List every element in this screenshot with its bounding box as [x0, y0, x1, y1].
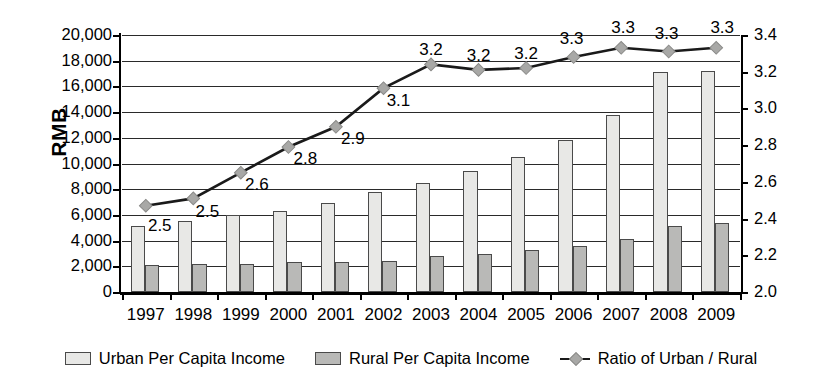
y-axis-right-tick — [741, 108, 748, 110]
bar-urban — [558, 140, 572, 292]
legend-item[interactable]: Ratio of Urban / Rural — [560, 349, 758, 368]
bar-urban — [463, 171, 477, 292]
ratio-data-label: 2.5 — [195, 202, 219, 222]
x-axis-tick — [217, 292, 219, 300]
legend-label: Urban Per Capita Income — [99, 349, 285, 368]
bar-rural — [192, 264, 206, 292]
bar-urban — [368, 192, 382, 292]
x-axis-tick-label: 2000 — [269, 305, 307, 325]
ratio-data-label: 3.2 — [514, 44, 538, 64]
bar-rural — [668, 226, 682, 292]
bar-rural — [287, 262, 301, 292]
bar-rural — [573, 246, 587, 292]
x-axis-tick-label: 2004 — [460, 305, 498, 325]
y-axis-left-tick — [113, 61, 120, 63]
y-axis-left-tick — [113, 112, 120, 114]
x-axis-tick — [407, 292, 409, 300]
x-axis-tick-label: 2006 — [555, 305, 593, 325]
bar-urban — [226, 215, 240, 292]
y-axis-left-tick-label: 6,000 — [12, 205, 112, 224]
y-axis-left-tick — [113, 35, 120, 37]
x-axis-tick — [502, 292, 504, 300]
bar-urban — [511, 157, 525, 292]
ratio-data-label: 3.3 — [655, 24, 679, 44]
y-axis-left-tick-label: 10,000 — [12, 154, 112, 173]
ratio-data-label: 3.3 — [611, 18, 635, 38]
x-axis-tick-label: 1998 — [174, 305, 212, 325]
ratio-data-label: 3.3 — [560, 29, 584, 49]
bar-rural — [715, 223, 729, 292]
y-axis-left-tick — [113, 86, 120, 88]
ratio-data-label: 3.2 — [419, 40, 443, 60]
gridline — [122, 112, 740, 113]
x-axis-tick — [265, 292, 267, 300]
ratio-data-label: 2.5 — [148, 216, 172, 236]
y-axis-left-tick — [113, 241, 120, 243]
ratio-data-label: 2.8 — [294, 149, 318, 169]
bar-rural — [335, 262, 349, 292]
x-axis-tick — [170, 292, 172, 300]
x-axis-tick-label: 2003 — [412, 305, 450, 325]
gridline — [122, 164, 740, 165]
y-axis-right-tick — [741, 219, 748, 221]
legend-swatch-urban-icon — [65, 352, 91, 365]
legend-item[interactable]: Urban Per Capita Income — [65, 349, 285, 368]
legend-swatch-rural-icon — [315, 352, 341, 365]
y-axis-left-tick-label: 14,000 — [12, 102, 112, 121]
x-axis-tick — [312, 292, 314, 300]
y-axis-left-tick-label: 20,000 — [12, 25, 112, 44]
chart-legend: Urban Per Capita IncomeRural Per Capita … — [0, 344, 822, 372]
x-axis-tick — [740, 292, 742, 300]
gridline — [122, 189, 740, 190]
gridline — [122, 61, 740, 62]
y-axis-left-tick — [113, 266, 120, 268]
y-axis-left-tick-label: 12,000 — [12, 128, 112, 147]
bar-rural — [525, 250, 539, 292]
x-axis-tick-label: 2005 — [507, 305, 545, 325]
gridline — [122, 241, 740, 242]
y-axis-left-tick-label: 18,000 — [12, 51, 112, 70]
bar-urban — [273, 211, 287, 292]
legend-label: Ratio of Urban / Rural — [598, 349, 758, 368]
legend-line-marker-icon — [560, 352, 590, 365]
y-axis-right-tick — [741, 182, 748, 184]
y-axis-left-tick-label: 8,000 — [12, 179, 112, 198]
bar-urban — [653, 72, 667, 292]
y-axis-left-tick — [113, 215, 120, 217]
bar-rural — [478, 254, 492, 292]
legend-label: Rural Per Capita Income — [349, 349, 530, 368]
gridline — [122, 138, 740, 139]
y-axis-right-tick — [741, 35, 748, 37]
x-axis-tick — [122, 292, 124, 300]
gridline — [122, 35, 740, 36]
x-axis-tick-label: 2002 — [365, 305, 403, 325]
y-axis-right-tick — [741, 145, 748, 147]
y-axis-right-tick-label: 2.8 — [754, 135, 777, 154]
y-axis-right-tick-label: 2.2 — [754, 245, 777, 264]
y-axis-right-tick-label: 3.4 — [754, 25, 777, 44]
y-axis-right-tick — [741, 292, 748, 294]
y-axis-right-tick-label: 2.0 — [754, 282, 777, 301]
ratio-data-label: 2.9 — [341, 129, 365, 149]
bar-urban — [701, 71, 715, 292]
y-axis-right-tick-label: 2.4 — [754, 209, 777, 228]
x-axis-tick — [550, 292, 552, 300]
bar-rural — [382, 261, 396, 292]
gridline — [122, 86, 740, 87]
x-axis-tick-label: 2009 — [697, 305, 735, 325]
chart-container: RMB 02,0004,0006,0008,00010,00012,00014,… — [0, 0, 822, 384]
ratio-data-label: 3.3 — [710, 18, 734, 38]
bar-rural — [620, 239, 634, 292]
y-axis-right-tick — [741, 72, 748, 74]
y-axis-right-tick-label: 3.2 — [754, 62, 777, 81]
bar-urban — [321, 203, 335, 292]
y-axis-left-tick-label: 4,000 — [12, 231, 112, 250]
y-axis-left-tick-label: 2,000 — [12, 256, 112, 275]
bar-rural — [240, 264, 254, 292]
legend-item[interactable]: Rural Per Capita Income — [315, 349, 530, 368]
x-axis-line — [120, 292, 742, 295]
y-axis-right-tick-label: 2.6 — [754, 172, 777, 191]
bar-urban — [131, 226, 145, 292]
bar-urban — [416, 183, 430, 292]
x-axis-tick — [360, 292, 362, 300]
